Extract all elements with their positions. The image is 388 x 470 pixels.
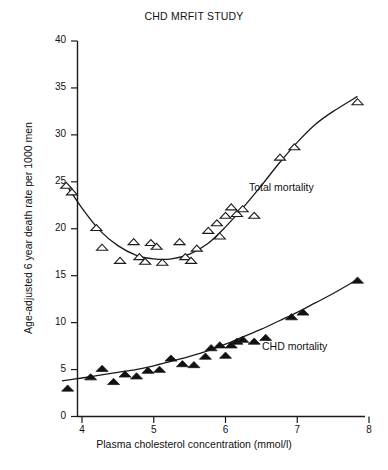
y-tick-label: 15 (0, 269, 66, 280)
fit-curve (62, 279, 358, 380)
series-label-chd-mortality: CHD mortality (262, 340, 327, 352)
y-tick-label: 35 (0, 81, 66, 92)
y-axis-ticks (71, 41, 78, 417)
fit-curve (66, 96, 357, 259)
y-tick-label: 0 (0, 410, 66, 421)
total-mortality-marker (128, 239, 139, 245)
chd-mortality-marker (199, 353, 211, 359)
chd-mortality-marker (62, 385, 74, 391)
y-tick-label: 10 (0, 316, 66, 327)
chd-mortality-marker (220, 352, 232, 358)
chd-mortality-marker (248, 338, 260, 344)
chd-mortality-marker (96, 365, 108, 371)
total-mortality-marker (237, 206, 248, 212)
fit-curves (62, 96, 358, 380)
total-mortality-marker (203, 227, 214, 233)
total-mortality-marker (174, 239, 185, 245)
chd-mortality-marker (176, 361, 188, 367)
chart-figure: CHD MRFIT STUDY Age-adjusted 6 year deat… (0, 0, 388, 470)
x-tick-label: 8 (349, 424, 388, 435)
total-mortality-marker (97, 244, 108, 250)
total-mortality-marker (91, 225, 102, 231)
axes (78, 41, 366, 417)
chd-mortality-marker (153, 366, 165, 372)
total-mortality-marker (289, 144, 300, 150)
total-mortality-marker (220, 212, 231, 218)
y-tick-label: 20 (0, 222, 66, 233)
total-mortality-marker (226, 204, 237, 210)
total-mortality-marker (249, 212, 260, 218)
chd-mortality-marker (108, 378, 120, 384)
series-label-total-mortality: Total mortality (249, 181, 314, 193)
x-axis-ticks (82, 417, 369, 424)
chd-mortality-marker (131, 373, 143, 379)
total-mortality-marker (352, 99, 363, 105)
x-tick-label: 7 (277, 424, 317, 435)
total-mortality-marker (115, 257, 126, 263)
x-tick-label: 4 (62, 424, 102, 435)
chd-mortality-marker (165, 355, 177, 361)
chd-mortality-marker (188, 361, 200, 367)
x-tick-label: 6 (206, 424, 246, 435)
y-tick-label: 30 (0, 128, 66, 139)
y-tick-label: 25 (0, 175, 66, 186)
chd-mortality-marker (352, 277, 364, 283)
plot-area (0, 0, 388, 470)
total-mortality-marker (66, 189, 77, 195)
total-mortality-marker (211, 220, 222, 226)
x-tick-label: 5 (134, 424, 174, 435)
y-tick-label: 5 (0, 363, 66, 374)
total-mortality-marker (157, 259, 168, 265)
y-tick-label: 40 (0, 34, 66, 45)
